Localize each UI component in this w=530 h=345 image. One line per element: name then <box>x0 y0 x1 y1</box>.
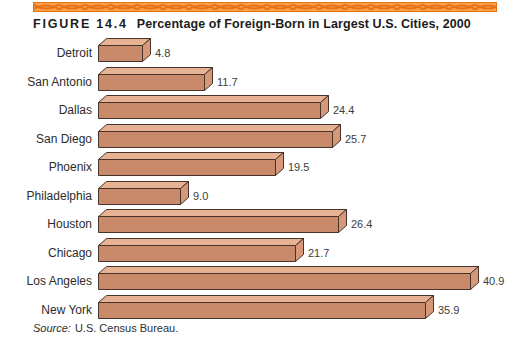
bar-3d <box>98 152 285 176</box>
source-label: Source: <box>33 322 71 334</box>
category-label: Chicago <box>0 245 92 261</box>
category-label: San Diego <box>0 131 92 147</box>
source-text: U.S. Census Bureau. <box>75 322 178 334</box>
category-label: Philadelphia <box>0 188 92 204</box>
value-label: 21.7 <box>308 246 329 261</box>
bar-row: Houston26.4 <box>0 209 530 233</box>
figure-title: Percentage of Foreign-Born in Largest U.… <box>137 17 471 31</box>
figure-heading: FIGURE 14.4Percentage of Foreign-Born in… <box>33 17 523 32</box>
bar-row: Detroit4.8 <box>0 38 530 62</box>
bar-3d <box>98 95 330 119</box>
value-label: 26.4 <box>351 217 372 232</box>
bar-row: Los Angeles40.9 <box>0 266 530 290</box>
bar-3d <box>98 209 348 233</box>
bar-3d <box>98 38 152 62</box>
bar-3d <box>98 295 435 319</box>
bar-3d <box>98 181 190 205</box>
category-label: San Antonio <box>0 74 92 90</box>
bar-3d <box>98 124 342 148</box>
value-label: 24.4 <box>333 103 354 118</box>
value-label: 11.7 <box>217 75 238 90</box>
source-note: Source:U.S. Census Bureau. <box>33 322 178 334</box>
bar-row: Chicago21.7 <box>0 238 530 262</box>
value-label: 4.8 <box>155 46 170 61</box>
category-label: Houston <box>0 216 92 232</box>
bar-row: New York35.9 <box>0 295 530 319</box>
value-label: 9.0 <box>193 189 208 204</box>
value-label: 35.9 <box>438 303 459 318</box>
bar-3d <box>98 266 480 290</box>
bar-row: Phoenix19.5 <box>0 152 530 176</box>
bar-row: San Diego25.7 <box>0 124 530 148</box>
bar-row: San Antonio11.7 <box>0 67 530 91</box>
category-label: Detroit <box>0 45 92 61</box>
value-label: 40.9 <box>483 274 504 289</box>
bar-3d <box>98 238 305 262</box>
figure-panel: FIGURE 14.4Percentage of Foreign-Born in… <box>0 0 530 345</box>
bar-row: Philadelphia9.0 <box>0 181 530 205</box>
category-label: Los Angeles <box>0 273 92 289</box>
bar-chart: Detroit4.8San Antonio11.7Dallas24.4San D… <box>0 38 530 320</box>
category-label: Phoenix <box>0 159 92 175</box>
bar-3d <box>98 67 214 91</box>
category-label: Dallas <box>0 102 92 118</box>
figure-number: FIGURE 14.4 <box>33 17 128 31</box>
category-label: New York <box>0 302 92 318</box>
value-label: 19.5 <box>288 160 309 175</box>
decorative-wave-band <box>33 2 497 12</box>
bar-row: Dallas24.4 <box>0 95 530 119</box>
value-label: 25.7 <box>345 132 366 147</box>
